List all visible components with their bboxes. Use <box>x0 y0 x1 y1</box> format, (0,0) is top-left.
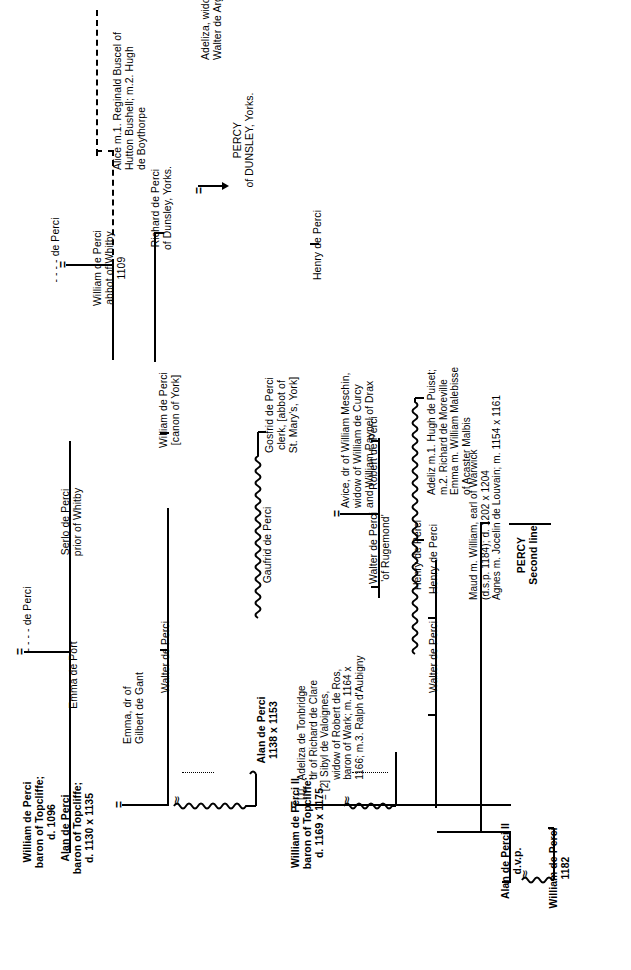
approx-symbol-alan: ≈ <box>170 795 183 806</box>
dotted-run-alan <box>182 772 214 773</box>
node-richard-de-perci-dunsley: Richard de Perci of Dunsley, Yorks. <box>150 148 174 268</box>
node-william-de-perci-abbot: William de Perci abbot of Whitby 1109 <box>92 188 128 348</box>
arrow-head-dunsley <box>222 182 229 190</box>
node-walter-de-perci-1: Walter de Perci <box>160 602 172 712</box>
node-serlo-de-perci: Serlo de Perci prior of Whitby <box>60 432 84 612</box>
node-henry-de-perci-3: Henry de Perci <box>412 500 424 610</box>
node-emma-de-gant: Emma, dr of Gilbert de Gant <box>122 614 146 744</box>
line-dashed-alice-upper <box>96 10 98 155</box>
squiggle-william-ii <box>340 746 402 812</box>
tick-william-ii <box>167 794 169 806</box>
node-william-de-perci-topcliffe: William de Perci baron of Topcliffe; d. … <box>22 722 58 922</box>
genealogy-chart: - - - - de Perci = Emma de Port William … <box>0 0 631 970</box>
line-rugemond-descent <box>340 513 380 515</box>
line-arrow-to-dunsley <box>198 185 224 187</box>
node-alan-de-perci-topcliffe: Alan de Perci baron of Topcliffe; d. 113… <box>60 728 96 928</box>
node-de-perci-second: - - - - de Perci <box>50 190 62 310</box>
node-robert-de-perci: Robert de Perci <box>368 398 380 508</box>
node-henry-de-perci-2: Henry de Perci <box>428 504 440 614</box>
node-adeliz-and-emma: Adeliz m.1. Hugh de Puiset; m.2. Richard… <box>426 305 472 495</box>
line-alan-descent <box>122 804 169 806</box>
tick-henry-1 <box>310 243 319 245</box>
node-alice: Alice m.1. Reginald Buscel of Hutton Bus… <box>112 0 148 170</box>
tick-henry-2 <box>428 617 437 619</box>
node-adeliza-argentom: Adeliza, widow of Walter de Argentom <box>200 0 224 60</box>
marriage-equals-richard: = <box>193 187 205 194</box>
tick-william-abbot <box>112 346 114 360</box>
node-percy-of-dunsley: PERCY of DUNSLEY, Yorks. <box>232 70 256 210</box>
line-to-percy-second-line <box>509 523 551 525</box>
node-william-de-perci-canon: William de Perci [canon of York] <box>158 350 182 470</box>
line-maud-bar <box>480 522 482 832</box>
line-root-descent <box>24 651 70 653</box>
node-percy-second-line: PERCY Second line <box>516 500 540 610</box>
line-william-ii-descent <box>296 804 511 806</box>
node-maud-and-agnes: Maud m. William, earl of Warwick (d.s.p.… <box>468 375 503 600</box>
node-root-de-perci: - - - - de Perci <box>22 544 34 694</box>
node-william-de-perci-1182: William de Perci 1182 <box>548 808 572 928</box>
node-gosfrid-de-perci: Gosfrid de Perci clerk, [abbot of St. Ma… <box>264 360 300 470</box>
tick-walter-2 <box>428 714 437 716</box>
